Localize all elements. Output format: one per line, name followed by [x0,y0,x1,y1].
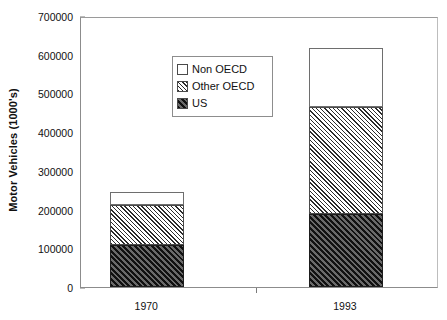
x-tick-label-1970: 1970 [135,300,158,312]
y-tick-label: 400000 [38,127,80,139]
legend-label: Non OECD [192,64,247,75]
bar-segment-us [110,245,184,287]
x-tick-label-1993: 1993 [333,300,356,312]
legend-label: Other OECD [192,81,254,92]
y-tick-label: 0 [67,282,80,294]
legend-item-non-oecd[interactable]: Non OECD [177,61,267,78]
y-tick-label: 100000 [38,243,80,255]
bar-segment-other-oecd [309,107,383,214]
chart-legend: Non OECDOther OECDUS [172,56,273,117]
y-axis-title-text: Motor Vehicles (1000's) [7,88,19,212]
chart-container: Motor Vehicles (1000's) 0100000200000300… [0,0,447,320]
bar-segment-non-oecd [110,192,184,205]
bar-segment-non-oecd [309,48,383,107]
legend-item-us[interactable]: US [177,95,267,112]
x-axis: 19701993 [80,288,438,320]
legend-swatch-us [177,98,188,109]
y-tick-label: 300000 [38,166,80,178]
y-axis-title: Motor Vehicles (1000's) [2,0,24,300]
y-tick-label: 200000 [38,205,80,217]
legend-item-other-oecd[interactable]: Other OECD [177,78,267,95]
legend-swatch-non-oecd [177,64,188,75]
bar-1993 [309,48,383,287]
y-tick-label: 600000 [38,50,80,62]
legend-item-list: Non OECDOther OECDUS [177,61,267,112]
bar-segment-us [309,214,383,287]
legend-swatch-other-oecd [177,81,188,92]
y-tick-label: 500000 [38,88,80,100]
x-tick-mark-center [256,288,257,293]
bar-segment-other-oecd [110,205,184,245]
legend-label: US [192,98,207,109]
y-tick-label: 700000 [38,11,80,23]
bar-1970 [110,192,184,287]
